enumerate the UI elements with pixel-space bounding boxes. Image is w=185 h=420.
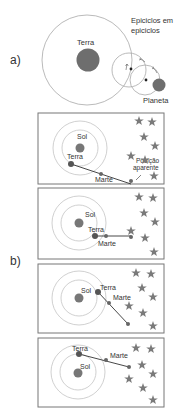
mars-disc — [104, 358, 108, 362]
planet-disc — [153, 79, 166, 92]
earth-label: Terra — [77, 38, 95, 47]
apparent-position-dot — [126, 322, 130, 326]
sun-disc — [75, 294, 84, 303]
mars-disc — [104, 234, 108, 238]
sun-label: Sol — [77, 133, 88, 140]
retrograde-motion-diagram: a) Terra Epiciclos em epiciclos Planeta … — [0, 0, 185, 420]
apparent-label-line2: aparente — [133, 164, 159, 172]
mars-label: Marte — [98, 240, 116, 247]
earth-disc — [77, 49, 100, 72]
mars-label: Marte — [113, 294, 131, 301]
sun-disc — [76, 144, 85, 153]
earth-disc — [68, 161, 74, 167]
apparent-position-dot — [127, 365, 131, 369]
panel-frame — [38, 188, 164, 259]
epicycle-2-center — [145, 79, 148, 82]
mars-label: Marte — [95, 176, 113, 183]
part-a-label: a) — [10, 53, 21, 67]
panel-frame — [38, 338, 164, 407]
planet-label: Planeta — [143, 96, 169, 105]
epicycle-1 — [112, 53, 146, 87]
panel-4: Sol Terra Marte — [38, 338, 164, 407]
epicycles-label-line1: Epiciclos em — [131, 16, 173, 25]
sun-disc — [75, 219, 84, 228]
sun-label: Sol — [85, 211, 96, 218]
epicycle-1-center — [130, 68, 133, 71]
part-a-geocentric-epicycles: a) Terra Epiciclos em epiciclos Planeta — [10, 15, 173, 105]
mars-disc — [107, 301, 111, 305]
earth-label: Terra — [67, 153, 83, 160]
panel-1: Sol Terra Marte Posição aparente — [38, 113, 164, 184]
epicycles-label-line2: epiciclos — [131, 26, 160, 35]
panel-2: Sol Terra Marte — [38, 188, 164, 259]
sun-label: Sol — [81, 287, 92, 294]
apparent-position-dot — [129, 235, 133, 239]
mars-label: Marte — [110, 352, 128, 359]
apparent-position-dot — [129, 179, 133, 183]
earth-disc — [92, 233, 98, 239]
sun-label: Sol — [80, 363, 91, 370]
earth-label: Terra — [72, 345, 88, 352]
part-b-label: b) — [10, 254, 21, 268]
arrow-head-icon — [139, 58, 141, 60]
earth-label: Terra — [88, 226, 104, 233]
earth-label: Terra — [100, 284, 116, 291]
panel-3: Sol Terra Marte — [38, 264, 164, 333]
panel-frame — [38, 264, 164, 333]
